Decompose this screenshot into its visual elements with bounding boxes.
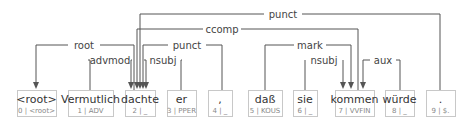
token-word: .: [439, 93, 443, 106]
arc-label: aux: [374, 55, 392, 66]
token-5[interactable]: daß5 | KOUS: [249, 91, 283, 117]
arrowhead-icon: [340, 82, 346, 89]
token-word: daß: [255, 93, 276, 106]
token-0[interactable]: <root>0 | <root>: [16, 91, 57, 117]
token-7[interactable]: kommen7 | VVFIN: [331, 91, 379, 117]
arc-line: [36, 45, 134, 90]
token-word: würde: [382, 93, 416, 106]
arc-label: punct: [173, 40, 202, 51]
token-word: dachte: [121, 93, 159, 106]
arc-label: root: [74, 40, 94, 51]
arc-label: ccomp: [205, 24, 238, 35]
token-word: Vermutlich: [61, 93, 120, 106]
token-meta: 3 | PPER: [167, 107, 196, 115]
token-meta: 0 | <root>: [18, 107, 55, 115]
token-meta: 2 | _: [133, 107, 148, 115]
arrowhead-icon: [33, 82, 39, 89]
token-3[interactable]: er3 | PPER: [167, 91, 197, 117]
arc-label: nsubj: [310, 55, 337, 66]
arc-line: [140, 14, 440, 90]
arrowhead-icon: [128, 82, 134, 89]
token-meta: 6 | _: [298, 107, 313, 115]
token-6[interactable]: sie6 | _: [294, 91, 318, 117]
token-8[interactable]: würde8 | _: [382, 91, 416, 117]
arc-nsubj-3-to-2: nsubj: [143, 55, 182, 91]
token-2[interactable]: dachte2 | _: [121, 91, 159, 117]
token-meta: 7 | VVFIN: [338, 107, 370, 115]
token-meta: 4 | _: [213, 107, 228, 115]
token-word: <root>: [16, 93, 57, 106]
token-word: er: [176, 93, 188, 106]
token-meta: 5 | KOUS: [250, 107, 281, 115]
token-meta: 9 | $.: [432, 107, 450, 115]
token-1[interactable]: Vermutlich1 | ADV: [61, 91, 120, 117]
arc-nsubj-6-to-7: nsubj: [305, 55, 346, 91]
token-word: sie: [297, 93, 313, 106]
arc-label: mark: [297, 40, 323, 51]
arc-line: [265, 45, 351, 90]
arc-label: punct: [269, 9, 298, 20]
arc-advmod-1-to-2: advmod: [88, 55, 134, 91]
arrowhead-icon: [360, 82, 366, 89]
arc-label: advmod: [90, 55, 131, 66]
token-9[interactable]: .9 | $.: [427, 91, 456, 117]
token-4[interactable]: ,4 | _: [209, 91, 233, 117]
token-meta: 1 | ADV: [77, 107, 103, 115]
arc-label: nsubj: [149, 55, 176, 66]
arc-line: [143, 45, 222, 90]
arc-aux-8-to-7: aux: [360, 55, 400, 91]
arrowhead-icon: [348, 82, 354, 89]
token-word: ,: [218, 93, 222, 106]
token-meta: 8 | _: [392, 107, 407, 115]
token-word: kommen: [331, 93, 379, 106]
dependency-tree: punctccomprootpunctmarkadvmodnsubjnsubja…: [0, 0, 470, 125]
